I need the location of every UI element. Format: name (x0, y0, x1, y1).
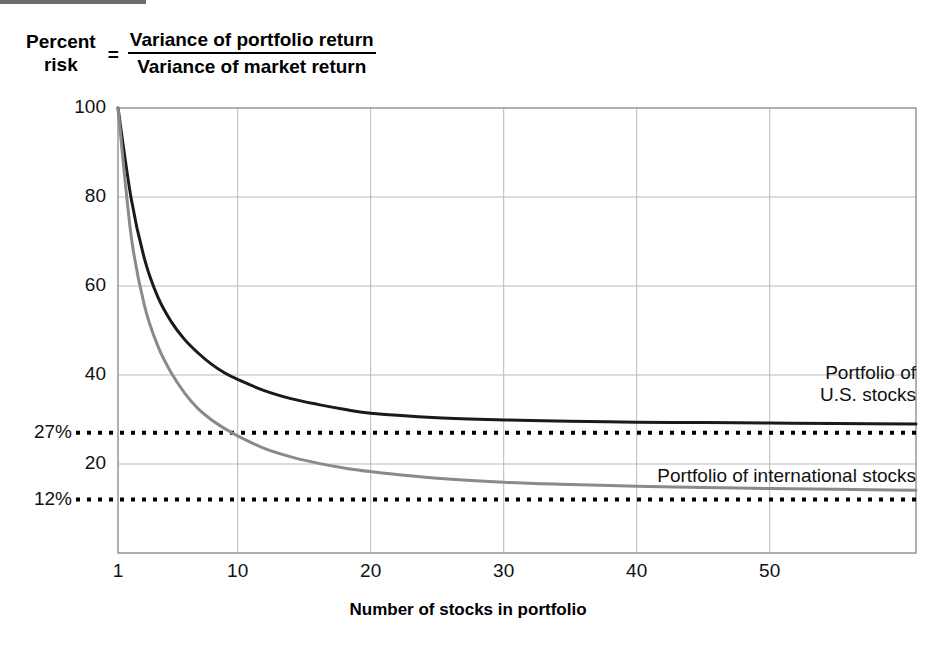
y-tick-label-40: 40 (40, 363, 106, 385)
y-tick-label-100: 100 (40, 96, 106, 118)
x-tick-label-10: 10 (208, 560, 268, 582)
y-tick-label-60: 60 (40, 274, 106, 296)
x-tick-label-50: 50 (740, 560, 800, 582)
annotation-us-stocks: Portfolio of U.S. stocks (820, 362, 916, 407)
annotation-international-stocks: Portfolio of international stocks (657, 465, 916, 487)
y-tick-label-80: 80 (40, 185, 106, 207)
y-tick-label-20: 20 (40, 452, 106, 474)
x-tick-label-40: 40 (607, 560, 667, 582)
plot-canvas (0, 0, 936, 646)
x-axis-title: Number of stocks in portfolio (0, 600, 936, 620)
reference-label-27pct: 27% (14, 421, 72, 443)
reference-label-12pct: 12% (14, 488, 72, 510)
annotation-us-stocks-line2: U.S. stocks (820, 384, 916, 406)
x-tick-label-30: 30 (474, 560, 534, 582)
x-tick-label-20: 20 (341, 560, 401, 582)
annotation-us-stocks-line1: Portfolio of (820, 362, 916, 384)
x-tick-label-1: 1 (88, 560, 148, 582)
diversification-risk-chart: 20406080100 27%12% 11020304050 Number of… (0, 0, 936, 646)
